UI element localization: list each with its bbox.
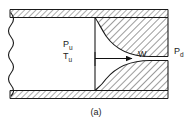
label-pu-subscript: u <box>69 44 73 51</box>
figure-container: Pu Tu W Pd (a) <box>0 0 192 132</box>
bottom-wall <box>10 91 168 99</box>
label-w-symbol: W <box>138 49 147 59</box>
label-upstream-temperature: Tu <box>63 52 72 63</box>
break-line-wavy <box>9 13 14 96</box>
label-mass-flow: W <box>138 50 147 59</box>
label-upstream-pressure: Pu <box>63 40 73 51</box>
figure-caption: (a) <box>0 108 192 117</box>
lower-nozzle-block <box>95 61 168 91</box>
top-wall <box>10 10 168 18</box>
label-downstream-pressure: Pd <box>174 47 184 58</box>
label-pd-subscript: d <box>180 51 184 58</box>
upper-nozzle-block <box>95 18 168 57</box>
label-tu-subscript: u <box>69 56 73 63</box>
